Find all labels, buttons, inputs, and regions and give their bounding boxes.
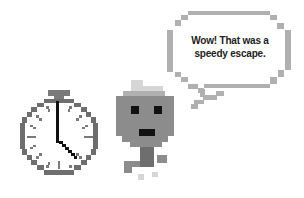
character-foot <box>152 172 158 177</box>
stopwatch-button <box>48 90 70 96</box>
stopwatch-hands <box>56 101 77 159</box>
character-mouth <box>139 129 155 136</box>
character-eye-left <box>131 106 139 114</box>
stopwatch-stem <box>54 96 64 99</box>
character-eye-right <box>154 106 162 114</box>
character-foot <box>138 174 144 180</box>
character-arm <box>157 155 167 163</box>
hour-hand <box>56 101 59 143</box>
character-neck <box>140 147 154 155</box>
minute-hand <box>59 141 63 144</box>
character-leg <box>124 167 132 173</box>
stopwatch-ticks <box>27 106 93 169</box>
character-torso <box>140 155 154 167</box>
